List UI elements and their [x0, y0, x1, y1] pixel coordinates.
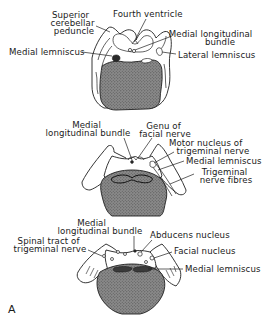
label-medial-lemniscus: Medial lemniscus — [186, 156, 262, 166]
label-spinal-tract-trigeminal: Spinal tract of trigeminal nerve — [14, 236, 87, 254]
panel-letter: A — [8, 303, 16, 316]
label-genu-facial-nerve: Genu of facial nerve — [139, 121, 191, 139]
mlf-left-dot — [128, 48, 131, 51]
label-superior-cerebellar-peduncle: Superior cerebellar peduncle — [51, 10, 98, 36]
lemniscus-right-mark — [142, 59, 152, 64]
mlf-mark — [134, 250, 137, 253]
leader-abducens-nucleus — [141, 240, 152, 252]
nucleus-dot — [145, 261, 148, 264]
label-medial-lemniscus: Medial lemniscus — [185, 264, 261, 274]
facial-nucleus-mark — [150, 256, 154, 260]
label-medial-longitudinal-bundle: Medial longitudinal bundle — [169, 29, 255, 47]
nucleus-dot — [124, 253, 127, 256]
pontine-core — [97, 264, 165, 314]
nucleus-dot — [117, 251, 120, 254]
mid-pons-section: Medial longitudinal bundle Genu of facia… — [46, 120, 262, 216]
label-lateral-lemniscus: Lateral lemniscus — [178, 50, 256, 60]
label-motor-nucleus-trigeminal: Motor nucleus of trigeminal nerve — [169, 138, 250, 156]
abducens-nucleus-mark — [138, 252, 142, 256]
label-abducens-nucleus: Abducens nucleus — [150, 230, 230, 240]
label-trigeminal-nerve-fibres: Trigeminal nerve fibres — [200, 167, 253, 185]
label-medial-longitudinal-bundle: Medial longitudinal bundle — [58, 218, 143, 236]
brainstem-sections-figure: Superior cerebellar peduncle Fourth vent… — [0, 0, 269, 321]
pontine-core — [100, 60, 162, 110]
spinal-tract-mark — [103, 255, 106, 258]
leader-medial-longitudinal-bundle — [124, 138, 132, 160]
upper-pons-section: Superior cerebellar peduncle Fourth vent… — [9, 9, 256, 110]
lower-pons-section: Medial longitudinal bundle Abducens nucl… — [14, 218, 261, 314]
lateral-lemniscus-mark — [156, 48, 162, 56]
label-fourth-ventricle: Fourth ventricle — [113, 9, 183, 19]
leader-genu-facial-nerve — [138, 138, 152, 158]
label-medial-longitudinal-bundle: Medial longitudinal bundle — [46, 120, 131, 138]
nucleus-dot — [111, 258, 114, 261]
medial-lemniscus-left — [113, 267, 132, 273]
medial-lemniscus-mark — [112, 55, 120, 61]
label-medial-lemniscus: Medial lemniscus — [9, 47, 85, 57]
mlf-mark — [131, 161, 134, 164]
label-facial-nucleus: Facial nucleus — [174, 246, 236, 256]
